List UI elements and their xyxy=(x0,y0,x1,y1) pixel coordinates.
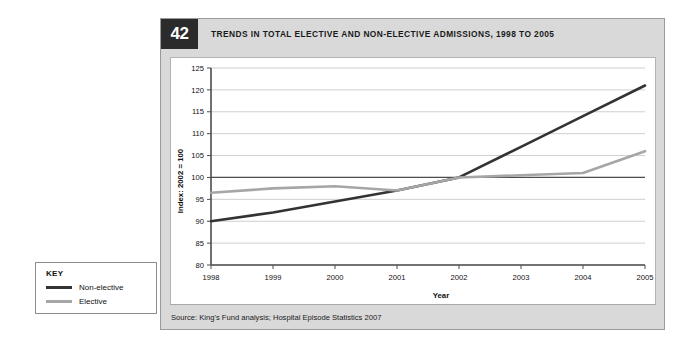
svg-text:100: 100 xyxy=(191,173,204,182)
svg-text:115: 115 xyxy=(192,107,204,116)
svg-text:80: 80 xyxy=(196,261,204,270)
figure-panel: 42 TRENDS IN TOTAL ELECTIVE AND NON-ELEC… xyxy=(160,18,665,330)
chart-legend: KEY Non-elective Elective xyxy=(35,262,157,314)
svg-text:2002: 2002 xyxy=(451,273,468,282)
legend-heading: KEY xyxy=(46,269,156,278)
figure-number-badge: 42 xyxy=(161,19,198,49)
svg-text:2003: 2003 xyxy=(513,273,530,282)
chart-series-group xyxy=(211,86,645,222)
legend-swatch-elective xyxy=(46,300,72,303)
source-note: Source: King's Fund analysis; Hospital E… xyxy=(161,305,664,329)
x-axis-tick-labels: 19981999200020012002200320042005 xyxy=(203,273,654,282)
svg-text:2001: 2001 xyxy=(389,273,406,282)
chart-plot-area: 80859095100105110115120125 1998199920002… xyxy=(170,57,656,305)
line-chart-svg: 80859095100105110115120125 1998199920002… xyxy=(171,58,655,304)
svg-text:95: 95 xyxy=(196,195,204,204)
legend-item-elective: Elective xyxy=(46,297,156,306)
legend-label-elective: Elective xyxy=(79,297,107,306)
legend-label-non-elective: Non-elective xyxy=(79,283,123,292)
legend-swatch-non-elective xyxy=(46,286,72,290)
svg-text:2004: 2004 xyxy=(575,273,592,282)
y-axis-label: Index: 2002 = 100 xyxy=(176,148,185,213)
svg-text:2000: 2000 xyxy=(327,273,344,282)
page-title: TRENDS IN TOTAL ELECTIVE AND NON-ELECTIV… xyxy=(198,19,664,49)
svg-text:2005: 2005 xyxy=(637,273,654,282)
svg-text:1999: 1999 xyxy=(265,273,282,282)
svg-text:120: 120 xyxy=(191,86,204,95)
svg-text:1998: 1998 xyxy=(203,273,220,282)
figure-title-row: 42 TRENDS IN TOTAL ELECTIVE AND NON-ELEC… xyxy=(161,19,664,49)
svg-text:85: 85 xyxy=(196,239,204,248)
svg-text:90: 90 xyxy=(196,217,204,226)
y-axis-tick-labels: 80859095100105110115120125 xyxy=(191,64,204,270)
chart-gridlines xyxy=(211,68,645,265)
legend-item-non-elective: Non-elective xyxy=(46,283,156,292)
svg-text:110: 110 xyxy=(192,129,204,138)
svg-text:125: 125 xyxy=(191,64,204,73)
x-axis-label: Year xyxy=(433,291,449,300)
svg-text:105: 105 xyxy=(191,151,204,160)
